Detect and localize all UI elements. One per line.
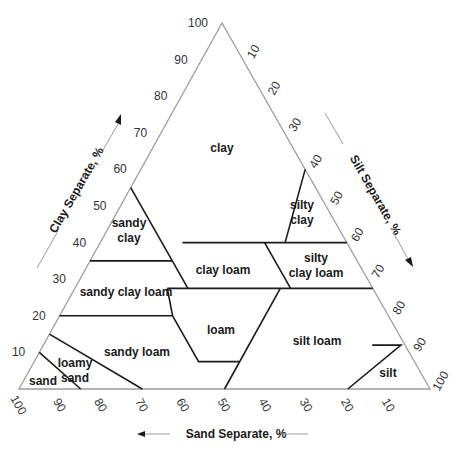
class-label-sandy-loam: sandy loam (104, 345, 170, 359)
soil-texture-triangle: 1020304050607080901001020304050607080901… (0, 0, 463, 460)
sand-tick: 50 (215, 396, 234, 415)
sand-tick: 40 (256, 396, 275, 415)
sand-tick: 90 (50, 396, 69, 415)
sand-tick: 80 (91, 396, 110, 415)
sand-tick: 70 (132, 396, 151, 415)
clay-tick: 40 (73, 236, 87, 250)
sand-tick: 30 (297, 396, 316, 415)
clay-tick: 60 (113, 162, 127, 176)
silt-tick: 10 (244, 42, 263, 61)
sand-tick: 60 (173, 396, 192, 415)
clay-tick: 90 (174, 53, 188, 67)
class-label-sandy-clay: clay (117, 231, 141, 245)
clay-tick: 100 (188, 16, 208, 30)
silt-tick: 40 (306, 152, 325, 171)
sand-tick: 20 (338, 396, 357, 415)
class-label-silty-clay: silty (290, 198, 314, 212)
silt-tick: 100 (429, 369, 451, 394)
class-label-clay-loam: clay loam (196, 263, 251, 277)
clay-tick: 30 (53, 272, 67, 286)
arrow-down-icon (405, 257, 413, 267)
class-label-sandy-clay-loam: sandy clay loam (80, 285, 173, 299)
clay-tick: 10 (12, 345, 26, 359)
arrow-left-icon (137, 431, 145, 437)
silt-tick: 70 (369, 262, 388, 281)
silt-tick: 30 (286, 115, 305, 134)
silt-tick: 60 (348, 225, 367, 244)
class-label-silty-clay-loam: clay loam (289, 266, 344, 280)
class-boundary (265, 243, 291, 289)
silt-tick: 50 (327, 188, 346, 207)
class-label-loamy-sand: sand (61, 371, 89, 385)
silt-tick: 20 (265, 79, 284, 98)
silt-axis-label: Silt Separate, % (347, 153, 404, 238)
sand-axis-label: Sand Separate, % (186, 427, 287, 441)
clay-tick: 20 (32, 309, 46, 323)
class-boundary (172, 261, 188, 289)
class-boundary (225, 288, 281, 389)
sand-axis-title: Sand Separate, % (137, 427, 308, 441)
class-label-sandy-clay: sandy (112, 216, 147, 230)
clay-tick: 80 (154, 89, 168, 103)
class-label-clay: clay (210, 141, 234, 155)
clay-axis-label: Clay Separate, % (46, 144, 107, 235)
clay-tick: 70 (134, 126, 148, 140)
class-label-loamy-sand: loamy (58, 356, 93, 370)
class-label-silt: silt (379, 366, 396, 380)
class-label-silt-loam: silt loam (293, 334, 342, 348)
clay-tick: 50 (93, 199, 107, 213)
silt-axis-title: Silt Separate, % (325, 113, 413, 267)
class-label-silty-clay: clay (290, 213, 314, 227)
silt-tick: 80 (390, 298, 409, 317)
sand-tick: 100 (7, 393, 29, 418)
class-label-sand: sand (29, 374, 57, 388)
arrow-up-icon (115, 114, 121, 125)
class-label-loam: loam (207, 323, 235, 337)
silt-tick: 90 (410, 335, 429, 354)
class-label-silty-clay-loam: silty (304, 251, 328, 265)
sand-tick: 10 (379, 396, 398, 415)
triangle-canvas: 1020304050607080901001020304050607080901… (0, 0, 463, 460)
